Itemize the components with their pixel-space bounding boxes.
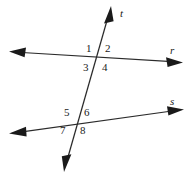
line-label-r: r xyxy=(170,45,174,56)
geometry-figure: 1 2 3 4 5 6 7 8 r s t xyxy=(0,0,195,178)
angle-label-4: 4 xyxy=(102,62,108,73)
geometry-canvas xyxy=(0,0,195,178)
angle-label-6: 6 xyxy=(84,107,90,118)
line-s-group xyxy=(9,106,184,136)
angle-label-2: 2 xyxy=(105,43,111,54)
line-r-left-arrowhead xyxy=(9,48,26,58)
angle-label-8: 8 xyxy=(80,125,86,136)
line-s-left-arrowhead xyxy=(9,127,27,137)
angle-label-7: 7 xyxy=(60,125,66,136)
line-s-right-arrowhead xyxy=(167,106,184,115)
line-s-segment xyxy=(22,111,172,132)
angle-label-1: 1 xyxy=(86,43,92,54)
line-r-right-arrowhead xyxy=(166,57,183,67)
line-t-segment xyxy=(68,17,108,157)
line-t-top-arrowhead xyxy=(104,6,114,24)
line-t-group xyxy=(62,6,114,172)
line-label-s: s xyxy=(170,96,174,107)
line-t-bottom-arrowhead xyxy=(62,154,72,172)
angle-label-5: 5 xyxy=(64,107,70,118)
angle-label-3: 3 xyxy=(83,62,89,73)
line-label-t: t xyxy=(120,8,123,19)
